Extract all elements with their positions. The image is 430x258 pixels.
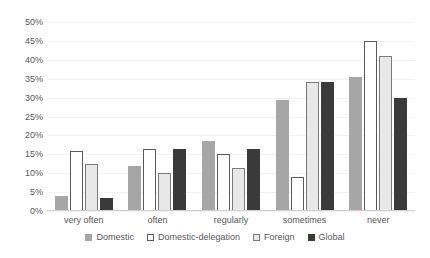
legend-item[interactable]: Global bbox=[308, 232, 345, 242]
bar bbox=[232, 168, 245, 211]
legend-swatch-icon bbox=[253, 234, 260, 241]
bar bbox=[202, 141, 215, 211]
legend-label: Global bbox=[319, 232, 345, 242]
x-axis: very oftenoftenregularlysometimesnever bbox=[47, 213, 415, 229]
y-axis-tick-label: 0% bbox=[3, 207, 43, 216]
y-axis-tick-label: 40% bbox=[3, 55, 43, 64]
bar bbox=[55, 196, 68, 211]
bar bbox=[276, 100, 289, 212]
bar bbox=[394, 98, 407, 211]
legend-label: Foreign bbox=[264, 232, 295, 242]
legend-swatch-icon bbox=[147, 234, 154, 241]
legend-item[interactable]: Domestic-delegation bbox=[147, 232, 240, 242]
bar-groups bbox=[47, 22, 415, 211]
bar bbox=[291, 177, 304, 211]
bar bbox=[173, 149, 186, 211]
bar bbox=[321, 82, 334, 211]
bar bbox=[217, 154, 230, 211]
y-axis-tick-label: 35% bbox=[3, 74, 43, 83]
bar bbox=[349, 77, 362, 211]
x-axis-tick-label: regularly bbox=[194, 213, 268, 229]
legend-swatch-icon bbox=[308, 234, 315, 241]
plot-area bbox=[47, 22, 415, 211]
x-axis-tick-label: very often bbox=[47, 213, 121, 229]
axis-baseline bbox=[47, 210, 415, 211]
y-axis-tick-label: 25% bbox=[3, 112, 43, 121]
y-axis-tick-label: 10% bbox=[3, 169, 43, 178]
x-axis-tick-label: never bbox=[341, 213, 415, 229]
x-axis-tick-label: sometimes bbox=[268, 213, 342, 229]
y-axis-tick-label: 30% bbox=[3, 93, 43, 102]
bar bbox=[247, 149, 260, 211]
bar bbox=[364, 41, 377, 211]
y-axis-tick-label: 20% bbox=[3, 131, 43, 140]
legend-label: Domestic-delegation bbox=[158, 232, 240, 242]
chart-legend: DomesticDomestic-delegationForeignGlobal bbox=[0, 232, 430, 242]
y-axis-tick-label: 45% bbox=[3, 36, 43, 45]
bar bbox=[158, 173, 171, 211]
bar-group bbox=[47, 22, 121, 211]
bar-chart: 0%5%10%15%20%25%30%35%40%45%50% very oft… bbox=[0, 0, 430, 258]
gridline bbox=[47, 211, 415, 212]
bar bbox=[306, 82, 319, 211]
legend-label: Domestic bbox=[96, 232, 134, 242]
bar bbox=[85, 164, 98, 211]
bar bbox=[128, 166, 141, 211]
bar bbox=[143, 149, 156, 211]
y-axis-tick-label: 5% bbox=[3, 188, 43, 197]
y-axis-tick-label: 15% bbox=[3, 150, 43, 159]
y-axis-tick-label: 50% bbox=[3, 18, 43, 27]
bar-group bbox=[121, 22, 195, 211]
legend-swatch-icon bbox=[85, 234, 92, 241]
legend-item[interactable]: Foreign bbox=[253, 232, 295, 242]
bar-group bbox=[194, 22, 268, 211]
bar bbox=[70, 151, 83, 211]
y-axis: 0%5%10%15%20%25%30%35%40%45%50% bbox=[0, 22, 43, 211]
bar-group bbox=[341, 22, 415, 211]
legend-item[interactable]: Domestic bbox=[85, 232, 134, 242]
bar-group bbox=[268, 22, 342, 211]
x-axis-tick-label: often bbox=[121, 213, 195, 229]
bar bbox=[379, 56, 392, 211]
